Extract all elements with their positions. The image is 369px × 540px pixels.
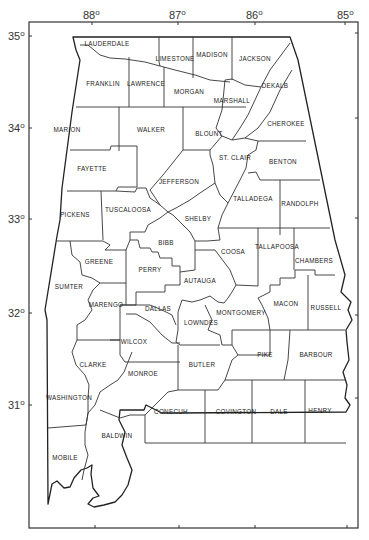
county-label: COVINGTON bbox=[216, 408, 257, 415]
county-label: MARION bbox=[54, 126, 81, 133]
county-label: PICKENS bbox=[60, 211, 90, 218]
county-label: TALLADEGA bbox=[233, 195, 273, 202]
svg-text:85o: 85o bbox=[337, 8, 354, 21]
county-label: MACON bbox=[274, 300, 299, 307]
svg-text:32o: 32o bbox=[8, 306, 25, 319]
longitude-labels: 88o 87o 86o 85o bbox=[83, 8, 354, 21]
county-label: PIKE bbox=[257, 351, 273, 358]
county-label: GREENE bbox=[85, 258, 113, 265]
county-label: MADISON bbox=[196, 51, 228, 58]
county-label: WASHINGTON bbox=[46, 394, 92, 401]
county-label: MARENGO bbox=[89, 301, 124, 308]
county-label: JEFFERSON bbox=[159, 178, 199, 185]
county-label: RANDOLPH bbox=[281, 200, 319, 207]
county-label: FAYETTE bbox=[77, 165, 107, 172]
svg-text:34o: 34o bbox=[8, 121, 25, 134]
county-label: CLARKE bbox=[80, 361, 107, 368]
svg-text:87o: 87o bbox=[169, 8, 186, 21]
county-label: MONTGOMERY bbox=[216, 309, 266, 316]
county-label: FRANKLIN bbox=[86, 80, 120, 87]
svg-text:86o: 86o bbox=[246, 8, 263, 21]
county-label: TUSCALOOSA bbox=[105, 206, 152, 213]
county-label: JACKSON bbox=[239, 55, 271, 62]
county-label: ST. CLAIR bbox=[219, 154, 251, 161]
state-outline bbox=[45, 37, 352, 507]
svg-text:35o: 35o bbox=[8, 29, 25, 42]
county-label: BIBB bbox=[158, 239, 174, 246]
svg-text:33o: 33o bbox=[8, 212, 25, 225]
county-label: MARSHALL bbox=[214, 97, 251, 104]
county-label: MORGAN bbox=[174, 88, 204, 95]
svg-text:88o: 88o bbox=[83, 8, 100, 21]
county-label: HENRY bbox=[308, 407, 332, 414]
county-label: BUTLER bbox=[189, 361, 216, 368]
county-label: BALDWIN bbox=[102, 432, 133, 439]
county-label: AUTAUGA bbox=[184, 277, 217, 284]
county-label: LIMESTONE bbox=[156, 55, 195, 62]
county-label: CONECUH bbox=[154, 408, 188, 415]
svg-text:31o: 31o bbox=[8, 398, 25, 411]
county-label: WALKER bbox=[137, 126, 165, 133]
latitude-labels: 35o 34o 33o 32o 31o bbox=[8, 29, 25, 411]
county-label: COOSA bbox=[221, 248, 246, 255]
county-label: SHELBY bbox=[185, 215, 212, 222]
county-label: BLOUNT bbox=[195, 130, 222, 137]
county-label: DALLAS bbox=[145, 305, 171, 312]
county-label: MONROE bbox=[128, 370, 158, 377]
county-label: TALLAPOOSA bbox=[255, 243, 300, 250]
county-label: PERRY bbox=[138, 266, 162, 273]
county-label: BENTON bbox=[269, 158, 297, 165]
county-label: MOBILE bbox=[52, 454, 78, 461]
county-label: CHEROKEE bbox=[267, 120, 305, 127]
county-label: BARBOUR bbox=[299, 351, 332, 358]
alabama-county-map: 88o 87o 86o 85o 35o 34o 33o 32o 31o bbox=[0, 0, 369, 540]
county-label: SUMTER bbox=[55, 283, 84, 290]
county-label: DALE bbox=[270, 408, 288, 415]
county-label: LAWRENCE bbox=[127, 80, 165, 87]
county-label: DEKALB bbox=[262, 82, 289, 89]
county-label: RUSSELL bbox=[311, 304, 342, 311]
county-label: LOWNDES bbox=[184, 319, 218, 326]
county-label: LAUDERDALE bbox=[85, 40, 130, 47]
county-label: CHAMBERS bbox=[295, 257, 333, 264]
county-label: WILCOX bbox=[121, 338, 148, 345]
